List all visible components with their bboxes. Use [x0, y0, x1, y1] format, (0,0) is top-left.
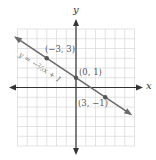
line-arrow-left	[14, 36, 22, 43]
line-arrow-right	[124, 108, 132, 115]
point-label-3-neg1: (3, −1)	[78, 98, 108, 108]
point-label-0-1: (0, 1)	[79, 67, 102, 77]
data-point	[74, 76, 78, 80]
y-axis-arrow-down	[73, 148, 79, 155]
coordinate-plane	[0, 0, 156, 160]
point-label-neg3-3: (−3, 3)	[45, 44, 75, 54]
x-axis-arrow-left	[9, 85, 16, 91]
x-axis-label: x	[146, 80, 152, 91]
y-axis-label: y	[73, 4, 79, 15]
data-point	[45, 56, 49, 60]
x-axis-arrow-right	[136, 85, 143, 91]
y-axis-arrow-up	[73, 19, 79, 26]
